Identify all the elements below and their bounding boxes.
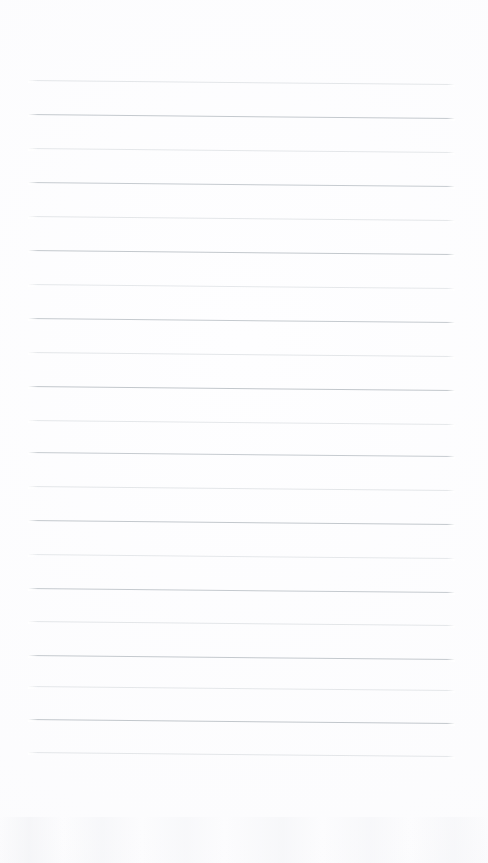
ruled-line: [28, 352, 455, 357]
ruled-line: [28, 588, 455, 593]
ruled-line: [28, 80, 455, 85]
ruled-line: [28, 148, 455, 153]
notebook-page: [0, 0, 488, 863]
ruled-line-layer: [0, 0, 488, 863]
ruled-line: [28, 114, 455, 119]
ruled-line: [28, 554, 455, 559]
ruled-line: [28, 655, 455, 660]
ruled-line: [28, 719, 455, 724]
ruled-line: [28, 386, 455, 391]
ruled-line: [28, 420, 455, 425]
ruled-line: [28, 250, 455, 255]
ruled-line: [28, 486, 455, 491]
ruled-line: [28, 621, 455, 626]
ruled-line: [28, 520, 455, 525]
ruled-line: [28, 686, 455, 691]
ruled-line: [28, 752, 455, 757]
ruled-line: [28, 452, 455, 457]
ruled-line: [28, 318, 455, 323]
ruled-line: [28, 182, 455, 187]
ruled-line: [28, 216, 455, 221]
ruled-line: [28, 284, 455, 289]
